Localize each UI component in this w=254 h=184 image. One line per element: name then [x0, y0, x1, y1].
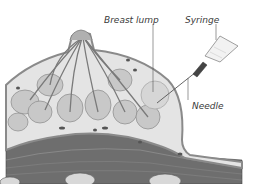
breast-lump	[141, 81, 169, 109]
breast-aspiration-illustration: Breast lump Syringe Needle	[0, 0, 254, 184]
needle-label: Needle	[192, 102, 224, 111]
syringe-hub[interactable]	[193, 62, 207, 77]
anatomy-drawing	[0, 0, 254, 184]
nipple	[70, 30, 92, 40]
syringe[interactable]	[205, 36, 238, 62]
breast-lump-label: Breast lump	[104, 16, 159, 25]
syringe-label: Syringe	[185, 16, 219, 25]
